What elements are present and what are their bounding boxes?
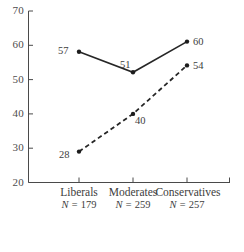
category-label-conservatives: Conservatives [145,186,231,199]
data-point-solid-conservatives [185,39,189,43]
n-value-conservatives: 257 [189,199,205,210]
data-point-dashed-conservatives [185,63,189,67]
value-label-dashed-moderates: 40 [135,115,146,126]
series-line-government-too-big [79,42,187,73]
n-prefix-moderates: N = [115,199,132,210]
value-label-solid-moderates: 51 [120,59,131,70]
line-chart-plot [0,0,244,252]
y-axis-label-20: 20 [4,177,24,188]
data-point-solid-liberals [77,50,81,54]
value-label-solid-liberals: 57 [58,45,69,56]
value-label-solid-conservatives: 60 [193,36,204,47]
y-axis-label-40: 40 [4,108,24,119]
y-axis-label-50: 50 [4,74,24,85]
sample-size-conservatives: N = 257 [147,199,227,211]
value-label-dashed-conservatives: 54 [193,60,204,71]
series-line-oppose-health-care [79,65,187,151]
data-point-solid-moderates [131,70,135,74]
y-axis-label-60: 60 [4,39,24,50]
y-axis-label-30: 30 [4,142,24,153]
chart-legend: key: Say that government is too big Oppo… [0,216,244,252]
value-label-dashed-liberals: 28 [59,149,70,160]
n-prefix-conservatives: N = [169,199,186,210]
data-point-dashed-liberals [77,149,81,153]
n-prefix-liberals: N = [61,199,78,210]
chart-figure: 70 60 50 40 30 20 57 51 60 28 40 54 Libe… [0,0,244,252]
y-axis-label-70: 70 [4,5,24,16]
